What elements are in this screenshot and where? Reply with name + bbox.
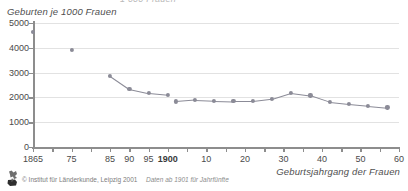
x-tick-mark [226, 148, 227, 152]
y-axis-line [33, 21, 35, 149]
x-tick-mark [264, 148, 265, 152]
x-tick-mark [360, 148, 361, 152]
y-tick-mark [29, 97, 33, 98]
gridline [33, 23, 399, 24]
plot-area [33, 23, 399, 147]
x-tick-mark [283, 148, 284, 152]
gridline [33, 73, 399, 74]
y-tick-label: 5000 [3, 18, 29, 28]
x-tick-label: 40 [317, 154, 327, 164]
y-tick-label: 2000 [3, 92, 29, 102]
x-tick-mark [380, 148, 381, 152]
x-tick-mark [149, 148, 150, 152]
birth-rate-chart: 1 000 Frauen Geburten je 1000 Frauen 010… [0, 0, 408, 191]
x-tick-label: 20 [240, 154, 250, 164]
clipped-title-sliver: 1 000 Frauen [120, 0, 176, 4]
institut-fuer-laenderkunde-logo [6, 170, 21, 187]
x-tick-mark [168, 148, 169, 152]
y-axis-title: Geburten je 1000 Frauen [7, 6, 117, 17]
x-tick-mark [206, 148, 207, 152]
y-tick-mark [29, 122, 33, 123]
x-tick-label: 75 [67, 154, 77, 164]
y-tick-label: 1000 [3, 117, 29, 127]
x-tick-mark [52, 148, 53, 152]
x-tick-label: 30 [278, 154, 288, 164]
x-tick-label: 60 [394, 154, 404, 164]
x-tick-mark [110, 148, 111, 152]
x-tick-mark [91, 148, 92, 152]
x-tick-label: 1865 [23, 154, 43, 164]
y-tick-label: 3000 [3, 68, 29, 78]
y-tick-label: 0 [3, 142, 29, 152]
gridline [33, 97, 399, 98]
x-axis-title: Geburtsjahrgang der Frauen [276, 166, 400, 177]
x-tick-mark [399, 148, 400, 152]
x-tick-label: 90 [124, 154, 134, 164]
x-axis-line [32, 147, 400, 149]
y-tick-mark [29, 48, 33, 49]
y-tick-mark [29, 23, 33, 24]
x-tick-label: 50 [355, 154, 365, 164]
gridline [33, 122, 399, 123]
x-tick-mark [322, 148, 323, 152]
x-tick-mark [72, 148, 73, 152]
gridline [33, 48, 399, 49]
x-tick-label: 95 [144, 154, 154, 164]
x-tick-mark [129, 148, 130, 152]
x-tick-label: 10 [201, 154, 211, 164]
x-tick-mark [341, 148, 342, 152]
y-tick-label: 4000 [3, 43, 29, 53]
y-tick-mark [29, 73, 33, 74]
copyright-text: © Institut für Länderkunde, Leipzig 2001 [22, 176, 137, 183]
x-tick-mark [245, 148, 246, 152]
x-tick-mark [33, 148, 34, 152]
x-tick-mark [187, 148, 188, 152]
x-tick-mark [303, 148, 304, 152]
x-tick-label: 85 [105, 154, 115, 164]
x-tick-label: 1900 [158, 154, 178, 164]
data-footnote: Daten ab 1901 für Jahrfünfte [146, 176, 229, 183]
